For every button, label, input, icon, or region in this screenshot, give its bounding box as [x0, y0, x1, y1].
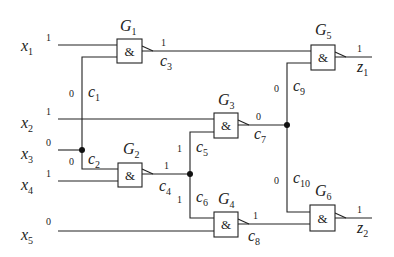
- gate-label-g6: G6: [315, 182, 332, 202]
- input-value-x2: 1: [46, 106, 51, 117]
- conn-value-c1: 0: [69, 88, 74, 99]
- gate-g2: &: [118, 163, 142, 187]
- output-value-z2: 1: [357, 204, 362, 215]
- input-label-x3: x3: [20, 145, 33, 165]
- gate-label-g4: G4: [218, 190, 235, 210]
- conn-value-c9: 0: [274, 83, 279, 94]
- and-symbol: &: [124, 44, 134, 59]
- conn-label-c2: c2: [88, 150, 100, 170]
- conn-value-c6: 1: [177, 194, 182, 205]
- output-value-z1: 1: [357, 43, 362, 54]
- conn-value-c3: 1: [161, 37, 166, 48]
- conn-label-c9: c9: [293, 77, 305, 97]
- output-stub-g1: [142, 46, 153, 51]
- gate-label-g5: G5: [315, 21, 332, 41]
- conn-label-c8: c8: [248, 227, 260, 247]
- output-stub-g2: [142, 169, 153, 174]
- and-symbol: &: [221, 118, 231, 133]
- logic-circuit-diagram: & & & & & & G1 G2 G3 G4 G5 G6 x1 x2 x3 x…: [0, 0, 394, 257]
- conn-label-c6: c6: [196, 188, 208, 208]
- input-value-x5: 0: [46, 216, 51, 227]
- and-symbol: &: [317, 211, 327, 226]
- conn-label-c3: c3: [160, 52, 172, 72]
- output-stub-g4: [238, 219, 249, 224]
- conn-label-c1: c1: [88, 83, 100, 103]
- input-value-x1: 1: [46, 32, 51, 43]
- gate-label-g3: G3: [218, 91, 235, 111]
- and-symbol: &: [221, 217, 231, 232]
- conn-value-c10: 0: [274, 175, 279, 186]
- wire-c1: [82, 57, 117, 150]
- input-label-x4: x4: [20, 176, 33, 196]
- output-label-z2: z2: [356, 219, 368, 239]
- output-stub-g6: [335, 213, 346, 218]
- conn-value-c8: 1: [253, 210, 258, 221]
- conn-value-c5: 1: [177, 143, 182, 154]
- input-label-x5: x5: [20, 226, 33, 246]
- conn-label-c4: c4: [159, 177, 171, 197]
- output-label-z1: z1: [356, 58, 368, 78]
- output-stub-g5: [335, 52, 346, 57]
- gate-g4: &: [214, 212, 238, 237]
- input-label-x2: x2: [20, 114, 33, 134]
- and-symbol: &: [125, 168, 135, 183]
- conn-label-c5: c5: [196, 138, 208, 158]
- input-value-x4: 1: [46, 168, 51, 179]
- gate-g5: &: [311, 45, 335, 70]
- gate-label-g2: G2: [123, 140, 140, 160]
- gate-g1: &: [117, 39, 142, 63]
- conn-value-c7: 0: [256, 111, 261, 122]
- conn-value-c2: 0: [69, 156, 74, 167]
- conn-label-c7: c7: [254, 125, 266, 145]
- conn-value-c4: 1: [164, 160, 169, 171]
- output-stub-g3: [238, 120, 249, 125]
- junction-dot-x3: [79, 147, 85, 153]
- junction-dot-c7: [284, 122, 290, 128]
- input-label-x1: x1: [20, 37, 33, 57]
- conn-label-c10: c10: [293, 169, 310, 189]
- input-value-x3: 0: [46, 137, 51, 148]
- gate-g6: &: [310, 205, 335, 231]
- gate-g3: &: [214, 113, 238, 138]
- gate-label-g1: G1: [120, 17, 137, 37]
- junction-dot-c4: [187, 171, 193, 177]
- and-symbol: &: [318, 50, 328, 65]
- wire-c9: [287, 63, 311, 125]
